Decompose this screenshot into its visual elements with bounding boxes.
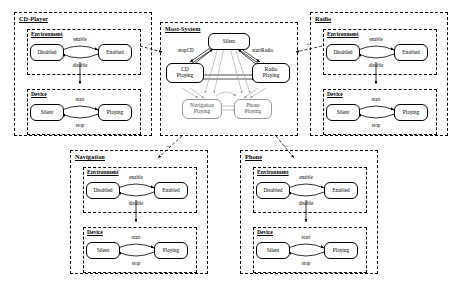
- edge-label-radio-enable: enable: [369, 36, 383, 42]
- state-cd-env-enabled[interactable]: Enabled: [98, 44, 132, 61]
- edge-label-nav-start: start: [132, 234, 141, 240]
- stereotype-glyph: «»: [133, 209, 138, 214]
- state-phone-env-disabled[interactable]: Disabled: [256, 182, 290, 199]
- state-cd-dev-playing[interactable]: Playing: [98, 104, 132, 121]
- edge-label-phone-enable: enable: [299, 174, 313, 180]
- edge-label-startradio: startRadio: [252, 47, 273, 53]
- state-nav-env-enabled[interactable]: Enabled: [154, 182, 188, 199]
- state-nav-env-disabled[interactable]: Disabled: [86, 182, 120, 199]
- edge-label-cd-start: start: [76, 96, 85, 102]
- state-cd-dev-silent[interactable]: Silent: [30, 104, 64, 121]
- stereotype-glyph: «»: [284, 143, 289, 148]
- state-label-line2: Playing: [177, 73, 193, 79]
- state-most-cd-playing[interactable]: CD Playing: [166, 63, 204, 83]
- state-most-navigation-playing[interactable]: Navigation Playing: [182, 99, 222, 119]
- state-cd-env-disabled[interactable]: Disabled: [30, 44, 64, 61]
- edge-label-nav-stop: stop: [132, 260, 141, 266]
- state-label-line2: Playing: [263, 73, 279, 79]
- edge-label-phone-disable: disable: [299, 200, 314, 206]
- edge-label-radio-disable: disable: [369, 62, 384, 68]
- edge-label-phone-stop: stop: [302, 260, 311, 266]
- edge-label-radio-stop: stop: [372, 122, 381, 128]
- edge-label-cd-disable: disable: [73, 62, 88, 68]
- state-label-line2: Playing: [245, 109, 261, 115]
- stereotype-glyph: «»: [77, 71, 82, 76]
- stereotype-glyph: «»: [306, 41, 311, 46]
- edge-label-cd-enable: enable: [73, 36, 87, 42]
- state-label-line2: Playing: [194, 109, 210, 115]
- state-phone-env-enabled[interactable]: Enabled: [324, 182, 358, 199]
- stereotype-glyph: «»: [303, 209, 308, 214]
- state-most-silent[interactable]: Silent: [208, 33, 250, 50]
- edge-label-phone-start: start: [302, 234, 311, 240]
- state-nav-dev-silent[interactable]: Silent: [86, 242, 120, 259]
- state-radio-dev-playing[interactable]: Playing: [394, 104, 428, 121]
- state-radio-dev-silent[interactable]: Silent: [326, 104, 360, 121]
- state-most-phone-playing[interactable]: Phone Playing: [234, 99, 272, 119]
- edge-label-nav-enable: enable: [129, 174, 143, 180]
- stereotype-glyph: «»: [148, 41, 153, 46]
- state-radio-env-enabled[interactable]: Enabled: [394, 44, 428, 61]
- diagram-canvas: CD-Player Environment Device Disabled En…: [0, 0, 464, 285]
- state-phone-dev-playing[interactable]: Playing: [324, 242, 358, 259]
- stereotype-glyph: «»: [373, 71, 378, 76]
- link-cdplayer-to-most: [140, 46, 162, 52]
- stereotype-glyph: «»: [166, 143, 171, 148]
- edge-label-stopcd: stopCD: [178, 47, 194, 53]
- edge-label-radio-start: start: [372, 96, 381, 102]
- state-nav-dev-playing[interactable]: Playing: [154, 242, 188, 259]
- edge-label-cd-stop: stop: [76, 122, 85, 128]
- state-most-radio-playing[interactable]: Radio Playing: [252, 63, 290, 83]
- state-radio-env-disabled[interactable]: Disabled: [326, 44, 360, 61]
- link-radio-to-most: [296, 46, 322, 52]
- edge-label-nav-disable: disable: [129, 200, 144, 206]
- state-phone-dev-silent[interactable]: Silent: [256, 242, 290, 259]
